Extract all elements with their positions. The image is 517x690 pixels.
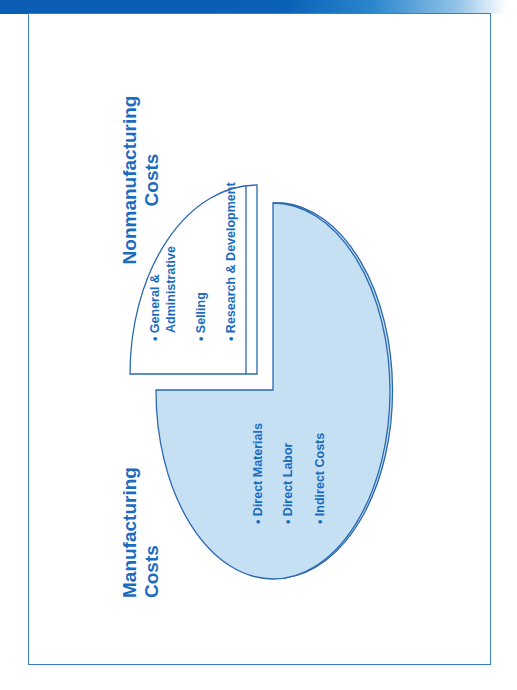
svg-text:Administrative: Administrative — [164, 246, 178, 333]
svg-text:• Direct Materials: • Direct Materials — [251, 423, 265, 524]
svg-text:Costs: Costs — [141, 545, 162, 598]
manufacturing-item-direct-materials: • Direct Materials — [251, 423, 265, 524]
svg-text:• Selling: • Selling — [194, 292, 208, 341]
svg-text:• Direct Labor: • Direct Labor — [281, 442, 295, 524]
svg-text:• General &: • General & — [148, 274, 162, 341]
svg-text:• Indirect Costs: • Indirect Costs — [313, 433, 327, 524]
nonmanufacturing-title: Nonmanufacturing Costs — [119, 96, 162, 265]
svg-text:Manufacturing: Manufacturing — [119, 467, 140, 598]
manufacturing-item-direct-labor: • Direct Labor — [281, 442, 295, 524]
svg-text:• Research & Development: • Research & Development — [224, 182, 238, 341]
svg-text:Costs: Costs — [141, 154, 162, 207]
manufacturing-title: Manufacturing Costs — [119, 467, 162, 598]
cost-pie-diagram: Nonmanufacturing Costs Manufacturing Cos… — [0, 0, 517, 690]
manufacturing-item-indirect-costs: • Indirect Costs — [313, 433, 327, 524]
svg-text:Nonmanufacturing: Nonmanufacturing — [119, 96, 140, 265]
nonmanufacturing-item-research-development: • Research & Development — [224, 182, 238, 341]
nonmanufacturing-item-selling: • Selling — [194, 292, 208, 341]
